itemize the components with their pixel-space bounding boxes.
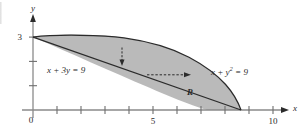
x-origin-label: 0 (29, 116, 34, 125)
curve-equation-tail: = 9 (233, 67, 248, 77)
curve-equation-label: x + y2 = 9 (211, 66, 248, 77)
x-axis-label: x (293, 104, 297, 113)
x-axis-arrowhead (281, 107, 289, 113)
figure-canvas: 3 0 5 10 y x x + 3y = 9 x + y2 = 9 R (0, 0, 302, 133)
plot-svg (0, 0, 302, 133)
region-label-R: R (187, 88, 193, 97)
line-equation-label: x + 3y = 9 (47, 66, 85, 75)
x-tick-label-10: 10 (269, 117, 278, 126)
y-axis-arrowhead (30, 14, 36, 22)
y-tick-label-3: 3 (18, 32, 23, 41)
curve-equation-head: x + y (211, 67, 230, 77)
x-tick-label-5: 5 (151, 117, 156, 126)
y-axis-label: y (31, 4, 35, 13)
